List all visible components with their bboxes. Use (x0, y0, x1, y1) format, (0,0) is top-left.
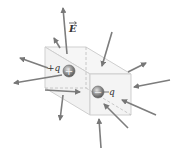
field-label: E (68, 23, 77, 34)
box (45, 47, 131, 115)
positive-charge: + (63, 65, 75, 77)
positive-charge-label: +q (47, 63, 61, 73)
field-arrow (99, 119, 101, 148)
field-arrow (134, 80, 170, 87)
field-arrow (20, 58, 48, 68)
svg-text:−: − (94, 87, 102, 98)
negative-charge-label: q (109, 87, 115, 97)
electric-flux-diagram: + − E +q q (0, 0, 185, 150)
svg-text:+: + (65, 66, 73, 77)
field-arrow (60, 95, 63, 120)
field-arrow (128, 63, 146, 72)
